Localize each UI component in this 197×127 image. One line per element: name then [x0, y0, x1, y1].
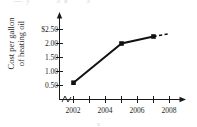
axis-break-icon	[62, 96, 71, 102]
data-line-solid	[74, 37, 154, 83]
chart-plot-area	[0, 0, 197, 127]
cutoff-bottom-text: x	[0, 120, 197, 127]
x-axis-arrow-icon	[180, 97, 187, 102]
data-point-marker	[119, 41, 124, 46]
data-point-marker	[151, 34, 156, 39]
y-axis-arrow-icon	[57, 12, 62, 19]
data-line-dashed-projection	[154, 34, 170, 37]
line-chart-figure: — y 3 a 3 Cost per gallon of heating oil…	[0, 0, 197, 127]
data-point-marker	[71, 80, 76, 85]
